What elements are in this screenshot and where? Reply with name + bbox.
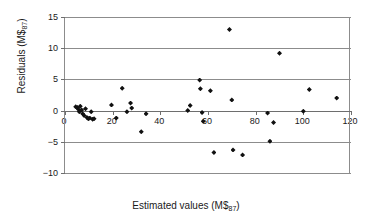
data-point — [197, 78, 202, 83]
data-point — [240, 152, 245, 157]
x-axis-title-base: Estimated values (M$ — [132, 200, 228, 211]
x-axis-tick — [160, 111, 161, 115]
gridline — [65, 142, 351, 143]
data-point — [334, 96, 339, 101]
data-point — [231, 147, 236, 152]
data-point — [139, 129, 144, 134]
gridline — [65, 173, 351, 174]
data-point — [227, 27, 232, 32]
data-point — [229, 97, 234, 102]
x-axis-tick — [65, 111, 66, 115]
x-axis-tick — [113, 111, 114, 115]
data-point — [198, 86, 203, 91]
data-point — [271, 120, 276, 125]
data-point — [109, 102, 114, 107]
x-axis-title: Estimated values (M$87) — [0, 200, 372, 212]
data-point — [188, 103, 193, 108]
x-axis-title-tail: ) — [236, 200, 239, 211]
y-axis-tick — [61, 111, 65, 112]
data-point — [267, 139, 272, 144]
data-point — [128, 101, 133, 106]
y-axis-tick — [61, 79, 65, 80]
plot-area — [64, 17, 350, 173]
x-axis-tick — [208, 111, 209, 115]
gridline — [65, 48, 351, 49]
x-axis-tick — [351, 111, 352, 115]
y-axis-tick — [61, 48, 65, 49]
data-point — [307, 87, 312, 92]
gridline — [65, 79, 351, 80]
x-axis-title-subscript: 87 — [229, 205, 237, 212]
data-point — [208, 88, 213, 93]
data-point — [277, 51, 282, 56]
scatter-chart-figure: Residuals (M$87) −10−5051015 02040608010… — [0, 0, 372, 224]
y-axis-tick — [61, 173, 65, 174]
data-point — [185, 108, 190, 113]
data-point — [301, 109, 306, 114]
x-axis-tick — [256, 111, 257, 115]
data-point — [114, 116, 119, 121]
data-point — [201, 119, 206, 124]
data-point — [120, 86, 125, 91]
y-axis-tick — [61, 17, 65, 18]
data-point — [144, 111, 149, 116]
gridline — [65, 17, 351, 18]
data-point — [211, 150, 216, 155]
y-axis-tick — [61, 142, 65, 143]
